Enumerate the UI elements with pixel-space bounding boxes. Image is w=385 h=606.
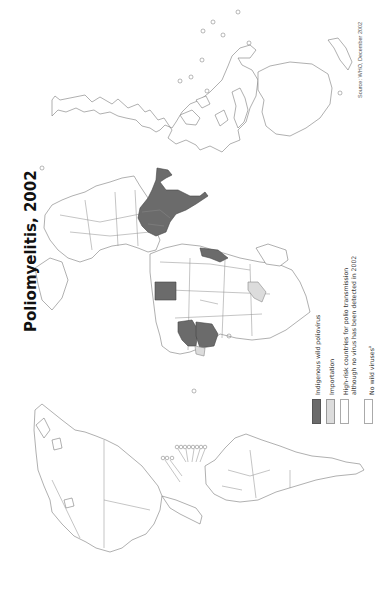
india-pakistan-afghanistan-endemic: [138, 168, 208, 236]
legend-swatch-importation: [326, 399, 335, 424]
legend-label-indigenous: Indigenous wild poliovirus: [314, 315, 322, 395]
legend-swatch-high-risk: [340, 399, 349, 424]
legend-label-high-risk-line2: although no virus has been detected in 2…: [350, 256, 358, 395]
south-america: [205, 434, 364, 502]
legend-label-high-risk-line1: High-risk countries for polio transmissi…: [342, 268, 350, 395]
source-credit: Source: WHO, December 2002: [357, 22, 363, 98]
legend-label-no-wild: No wild virusesa: [366, 346, 376, 395]
niger-endemic: [155, 282, 176, 300]
legend-label-no-wild-text: No wild viruses: [368, 348, 375, 395]
north-america: [34, 404, 162, 552]
new-zealand: [328, 38, 352, 70]
legend-swatch-no-wild: [364, 399, 373, 424]
importation-west-africa: [195, 346, 205, 356]
legend-swatch-indigenous: [312, 399, 321, 424]
legend-label-importation: Importation: [328, 359, 336, 395]
atlantic-island-marker: [192, 389, 196, 393]
map-title: Poliomyelitis, 2002: [22, 170, 40, 332]
legend-footnote-marker: a: [367, 346, 372, 348]
caribbean-island-markers: [161, 445, 207, 482]
asia-landmass: [52, 45, 258, 152]
map-legend: Indigenous wild poliovirus Importation H…: [312, 255, 384, 435]
australia: [258, 62, 332, 136]
central-america: [162, 496, 202, 524]
